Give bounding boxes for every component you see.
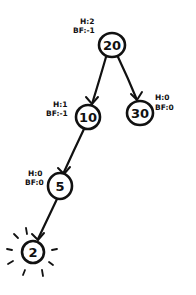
node-20-balance-factor: BF:-1	[73, 26, 95, 35]
node-value: 2	[28, 245, 37, 260]
node-30-height: H:0	[155, 93, 170, 102]
node-value: 5	[55, 179, 64, 194]
node-5-balance-factor: BF:0	[25, 178, 44, 187]
node-value: 20	[103, 38, 121, 53]
edge-20-10	[92, 57, 106, 104]
edge-10-5	[64, 129, 84, 172]
node-20-height: H:2	[80, 17, 95, 26]
node-30-balance-factor: BF:0	[155, 103, 174, 112]
node-value: 30	[131, 106, 149, 121]
tree-node-5: 5	[48, 173, 72, 199]
node-value: 10	[79, 110, 97, 125]
tree-node-20: 20	[99, 33, 125, 57]
node-5-height: H:0	[28, 169, 43, 178]
edge-5-2	[38, 199, 57, 239]
tree-node-30: 30	[127, 101, 153, 125]
edge-20-30	[118, 57, 137, 100]
tree-node-10: 10	[76, 105, 100, 129]
edges	[32, 57, 142, 240]
avl-tree-diagram: 20 H:2 BF:-1 10 H:1 BF:-1 30 H:0 BF:0 5 …	[0, 0, 196, 295]
node-10-balance-factor: BF:-1	[46, 109, 68, 118]
node-10-height: H:1	[53, 100, 68, 109]
